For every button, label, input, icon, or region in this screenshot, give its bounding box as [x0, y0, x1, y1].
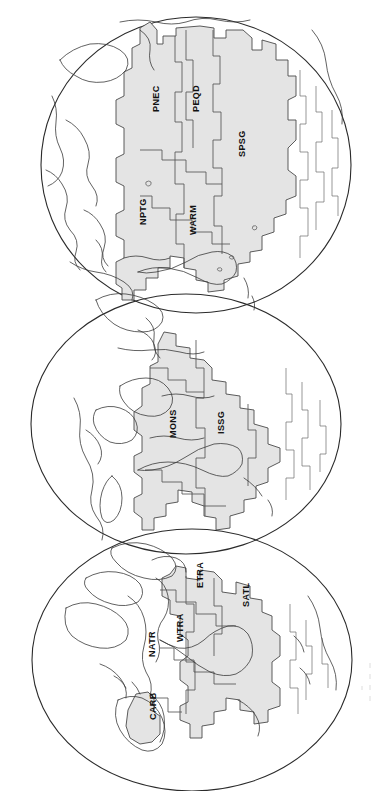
- province-label-wtra: WTRA: [175, 613, 185, 642]
- meridian-line-atlantic-1: [290, 604, 298, 714]
- meridian-line-indian-1: [286, 368, 294, 500]
- province-label-spsg: SPSG: [237, 130, 247, 157]
- province-label-etra: ETRA: [195, 562, 205, 588]
- meridian-line-pacific-1: [300, 70, 308, 258]
- meridian-line-indian-2: [302, 382, 310, 490]
- coastline-atlantic-islands: [294, 636, 310, 684]
- province-label-pnec: PNEC: [151, 85, 161, 112]
- province-label-issg: ISSG: [216, 411, 226, 434]
- coastline-horn-africa: [86, 430, 102, 464]
- province-label-satl: SATL: [241, 582, 251, 607]
- coastline-americas-west: [312, 30, 342, 124]
- province-label-nptg: NPTG: [138, 198, 148, 225]
- figure-container: PNEC PEQD SPSG NPTG WARM MONS ISSG: [0, 0, 382, 791]
- province-label-carb: CARB: [148, 692, 158, 720]
- province-label-peqd: PEQD: [191, 85, 201, 112]
- globe-pacific: PNEC PEQD SPSG NPTG WARM: [41, 17, 351, 313]
- province-region-pacific: [116, 22, 296, 300]
- meridian-line-atlantic-3: [322, 638, 328, 688]
- province-label-warm: WARM: [188, 205, 198, 235]
- coastline-china-sea: [84, 210, 108, 266]
- meridian-line-pacific-3: [332, 110, 338, 216]
- coastline-north-america: [65, 603, 128, 649]
- coastline-caribbean-islands: [114, 676, 140, 694]
- coastline-japan-arc: [66, 120, 97, 206]
- coastline-madagascar: [100, 476, 122, 523]
- province-label-mons: MONS: [168, 409, 178, 438]
- meridian-line-indian-3: [320, 400, 326, 472]
- province-region-indian: [134, 332, 280, 530]
- coastline-arabia: [93, 406, 137, 443]
- coastline-africa-east: [74, 398, 103, 540]
- province-divider-natr-carb: [154, 698, 182, 712]
- coastline-asia-north: [60, 44, 128, 83]
- meridian-line-pacific-2: [316, 86, 324, 230]
- globe-atlantic: NATR WTRA ETRA SATL CARB: [32, 529, 352, 791]
- scan-artifacts: [361, 663, 371, 701]
- coastline-borneo: [138, 330, 156, 360]
- province-map-figure: PNEC PEQD SPSG NPTG WARM MONS ISSG: [0, 0, 382, 791]
- coastline-east-asia: [46, 170, 80, 270]
- meridian-line-atlantic-2: [306, 620, 312, 700]
- coastline-central-america: [100, 664, 126, 698]
- coastline-greenland: [111, 543, 176, 580]
- globe-indian: MONS ISSG: [31, 294, 341, 554]
- province-label-natr: NATR: [147, 631, 157, 657]
